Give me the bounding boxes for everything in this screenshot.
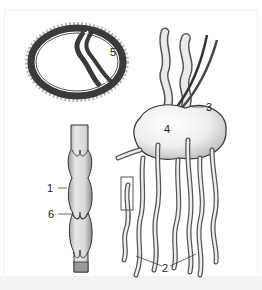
label-1: 1 [47, 182, 53, 194]
label-6: 6 [48, 208, 54, 220]
label-4: 4 [164, 123, 170, 135]
lymphatic-illustration: 1 2 3 4 5 6 [0, 0, 262, 290]
label-2: 2 [162, 262, 168, 274]
label-3: 3 [206, 101, 212, 113]
lymph-vessel-longitudinal [68, 125, 92, 272]
vessel-cross-section [27, 24, 127, 100]
efferent-vessels [164, 32, 217, 110]
label-5: 5 [110, 46, 116, 58]
